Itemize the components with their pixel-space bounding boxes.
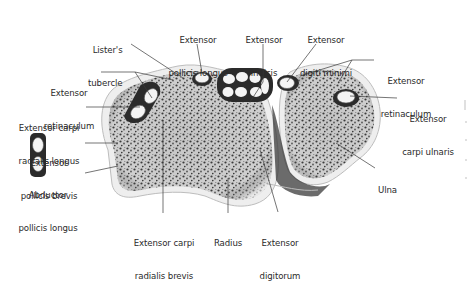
label-line: Extensor — [40, 88, 98, 99]
label-extensor-digitorum: Extensor digitorum — [255, 216, 305, 285]
label-line: Extensor — [255, 238, 305, 249]
label-extensor-digiti-minimi: Extensor digiti minimi — [292, 13, 360, 101]
label-line: Extensor — [238, 35, 290, 46]
label-abductor-pollicis-longus: Abductor pollicis longus — [12, 168, 84, 256]
label-line: Extensor — [160, 35, 236, 46]
label-line: Ulna — [378, 185, 397, 196]
label-line: Extensor carpi — [14, 123, 84, 134]
label-line: radialis brevis — [128, 271, 200, 282]
label-extensor-pollicis-longus: Extensor pollicis longus — [160, 13, 236, 101]
label-ulna: Ulna — [378, 163, 397, 218]
label-line: Extensor — [292, 35, 360, 46]
label-extensor-carpi-radialis-brevis: Extensor carpi radialis brevis — [128, 216, 200, 285]
label-line: Radius — [208, 238, 248, 249]
label-line: Abductor — [12, 190, 84, 201]
label-line: Extensor — [398, 114, 458, 125]
label-line: indicis — [238, 68, 290, 79]
label-line: digiti minimi — [292, 68, 360, 79]
label-line: digitorum — [255, 271, 305, 282]
label-line: Extensor — [377, 76, 435, 87]
label-line: pollicis longus — [160, 68, 236, 79]
label-line: Extensor carpi — [128, 238, 200, 249]
label-line: Lister's — [88, 45, 123, 56]
label-extensor-indicis: Extensor indicis — [238, 13, 290, 101]
label-radius: Radius — [208, 216, 248, 271]
label-line: carpi ulnaris — [398, 147, 458, 158]
label-extensor-carpi-ulnaris: Extensor carpi ulnaris — [398, 92, 458, 180]
label-line: pollicis longus — [12, 223, 84, 234]
